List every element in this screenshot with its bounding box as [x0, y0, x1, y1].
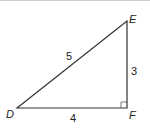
triangle-diagram: D E F 5 3 4 — [0, 1, 150, 129]
right-angle-marker — [121, 102, 127, 108]
triangle-def — [17, 21, 127, 108]
side-label-de: 5 — [66, 50, 72, 62]
vertex-label-f: F — [129, 109, 137, 121]
side-label-ef: 3 — [131, 65, 137, 77]
diagram-frame: D E F 5 3 4 — [0, 0, 150, 129]
vertex-label-d: D — [6, 108, 14, 120]
side-label-df: 4 — [70, 112, 76, 124]
vertex-label-e: E — [129, 13, 137, 25]
